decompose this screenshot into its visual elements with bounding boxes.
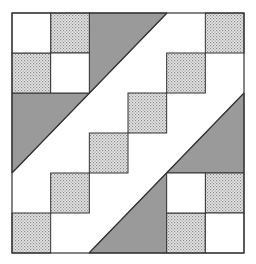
quilt-svg — [0, 0, 256, 264]
dotted-square — [205, 13, 244, 53]
dotted-square — [167, 213, 206, 253]
white-square — [12, 13, 51, 53]
white-square — [167, 173, 206, 213]
dotted-square — [12, 213, 51, 253]
white-square — [51, 53, 90, 93]
dotted-square — [51, 13, 90, 53]
white-square — [205, 213, 244, 253]
dotted-square — [167, 53, 206, 93]
dotted-square — [89, 133, 128, 173]
dotted-square — [12, 53, 51, 93]
dotted-square — [205, 173, 244, 213]
dotted-square — [128, 93, 167, 133]
dotted-square — [51, 173, 90, 213]
quilt-block-diagram — [0, 0, 256, 264]
